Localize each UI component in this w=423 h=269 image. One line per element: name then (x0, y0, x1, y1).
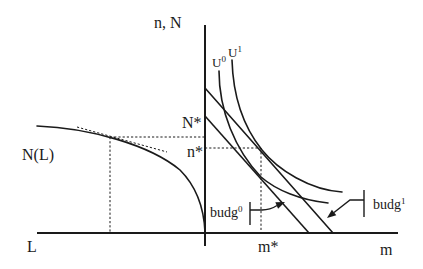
N-star-label: N* (182, 114, 202, 131)
budg0-label-base: budg (210, 205, 238, 220)
budg1-label-base: budg (373, 197, 401, 212)
U0-label: U0 (212, 54, 226, 70)
production-tangent-line (77, 127, 167, 152)
horizontal-axis-left-label: L (27, 238, 37, 255)
U1-label-sup: 1 (237, 44, 242, 54)
m-star-label: m* (258, 238, 278, 255)
budg1-label-sup: 1 (401, 196, 406, 206)
vertical-axis-label: n, N (154, 14, 182, 31)
production-curve-N-of-L (37, 126, 205, 232)
n-star-label: n* (187, 143, 203, 160)
budg1-callout-arrow (334, 200, 364, 213)
budg1-label: budg1 (373, 196, 406, 212)
budg0-callout-arrow (250, 206, 277, 211)
indifference-curve-U1 (232, 60, 342, 192)
budg0-label-sup: 0 (238, 204, 243, 214)
production-curve-label: N(L) (22, 146, 54, 164)
horizontal-axis-right-label: m (380, 241, 393, 258)
budg0-label: budg0 (210, 204, 243, 220)
U0-label-sup: 0 (221, 54, 226, 64)
U1-label: U1 (228, 44, 242, 60)
economics-diagram: n, N L m N(L) U0 U1 N* n* m* budg0 budg1 (0, 0, 423, 269)
